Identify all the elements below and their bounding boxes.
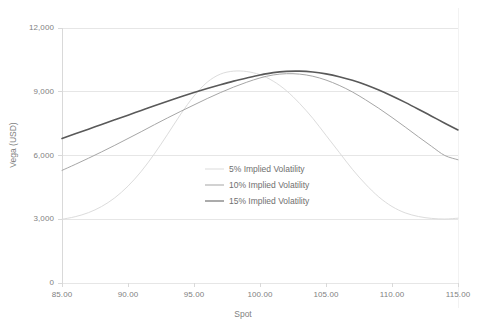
x-tick-label: 105.00	[306, 290, 346, 299]
x-tick-label: 95.00	[174, 290, 214, 299]
legend-label: 15% Implied Volatility	[229, 196, 309, 206]
x-tick-label: 85.00	[42, 290, 82, 299]
legend-item[interactable]: 5% Implied Volatility	[205, 161, 309, 177]
legend-swatch-icon	[205, 180, 224, 190]
legend-item[interactable]: 10% Implied Volatility	[205, 177, 309, 193]
y-axis-title: Vega (USD)	[8, 110, 18, 180]
vega-vs-spot-chart: 03,0006,0009,00012,000 85.0090.0095.0010…	[0, 0, 486, 330]
x-tick-label: 110.00	[372, 290, 412, 299]
x-axis-title: Spot	[213, 309, 273, 319]
x-tick-label: 90.00	[108, 290, 148, 299]
legend-swatch-icon	[205, 164, 224, 174]
x-tick-label: 115.00	[438, 290, 478, 299]
legend-label: 5% Implied Volatility	[229, 164, 305, 174]
legend-label: 10% Implied Volatility	[229, 180, 309, 190]
gridlines	[62, 28, 458, 283]
legend-item[interactable]: 15% Implied Volatility	[205, 193, 309, 209]
caption-sliver	[8, 323, 438, 328]
tick-marks	[58, 28, 458, 287]
chart-legend: 5% Implied Volatility10% Implied Volatil…	[205, 161, 309, 209]
x-tick-label: 100.00	[240, 290, 280, 299]
legend-swatch-icon	[205, 196, 224, 206]
series-line-2	[62, 71, 458, 138]
y-tick-label: 9,000	[10, 87, 54, 96]
y-tick-label: 3,000	[10, 214, 54, 223]
y-tick-label: 12,000	[10, 23, 54, 32]
y-tick-label: 0	[10, 278, 54, 287]
